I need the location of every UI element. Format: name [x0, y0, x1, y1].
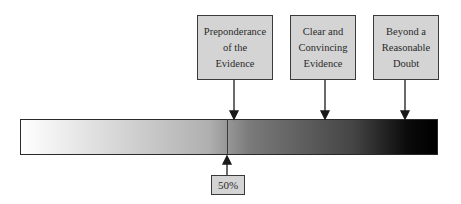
midpoint-50-percent-label: 50% — [211, 175, 245, 195]
preponderance-arrow-icon — [230, 80, 238, 119]
arrows-layer — [0, 0, 461, 204]
midpoint-arrow-icon — [223, 156, 231, 175]
clear-convincing-arrow-icon — [321, 80, 329, 119]
beyond-reasonable-doubt-arrow-icon — [401, 80, 409, 119]
